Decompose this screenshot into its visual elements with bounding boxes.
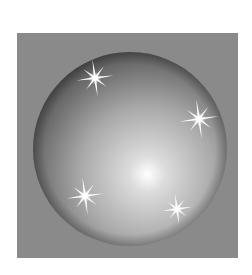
sphere-rim-shade xyxy=(33,52,227,246)
sphere-illustration xyxy=(0,0,252,275)
